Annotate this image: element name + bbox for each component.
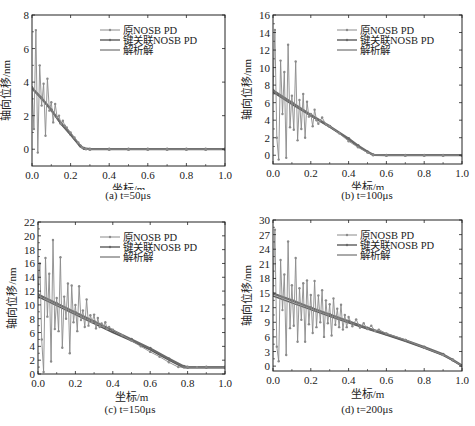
y-tick-label: 21 (259, 258, 270, 270)
y-tick-label: 2 (24, 110, 30, 122)
legend: 原NOSB PD键关联NOSB PD解析解 (100, 232, 197, 263)
y-tick-label: 12 (259, 302, 270, 314)
y-tick-label: 16 (24, 257, 36, 269)
y-tick-label: 14 (259, 27, 271, 39)
series-line (32, 88, 225, 149)
y-tick-label: 9 (265, 316, 271, 328)
chart-c: 0.00.20.40.60.81.00246810121416182022坐标/… (0, 210, 237, 405)
x-tick-label: 0.6 (141, 169, 155, 181)
legend-label: 解析解 (360, 249, 391, 261)
x-axis-label: 坐标/m (115, 390, 149, 403)
caption-c: (c) t=150μs (30, 403, 230, 415)
legend: 原NOSB PD键关联NOSB PD解析解 (337, 25, 434, 56)
x-tick-label: 0.2 (304, 167, 318, 179)
x-tick-label: 0.8 (417, 167, 431, 179)
x-tick-label: 0.2 (304, 374, 318, 386)
x-tick-label: 0.0 (25, 169, 39, 181)
x-tick-label: 0.0 (266, 167, 280, 179)
y-tick-label: 18 (24, 244, 36, 256)
chart-panel-b: 0.00.20.40.60.81.00246810121416坐标/m轴向位移/… (237, 0, 475, 210)
x-tick-label: 0.4 (342, 167, 356, 179)
y-axis-label: 轴向位移/nm (240, 265, 253, 327)
y-tick-label: 27 (259, 229, 271, 241)
x-tick-label: 0.4 (342, 374, 356, 386)
y-tick-label: 6 (24, 43, 30, 55)
x-tick-label: 0.4 (106, 377, 120, 389)
x-tick-label: 1.0 (455, 167, 469, 179)
x-tick-label: 0.6 (380, 167, 394, 179)
y-tick-label: 15 (259, 287, 271, 299)
chart-panel-d: 0.00.20.40.60.81.0036912151821242730坐标/m… (237, 210, 475, 426)
x-tick-label: 0.8 (180, 169, 194, 181)
chart-d: 0.00.20.40.60.81.0036912151821242730坐标/m… (237, 210, 475, 405)
y-tick-label: 22 (24, 216, 35, 228)
y-tick-label: 0 (265, 360, 271, 372)
y-tick-label: 0 (24, 143, 30, 155)
y-tick-label: 14 (24, 271, 36, 283)
x-tick-label: 1.0 (455, 374, 469, 386)
x-tick-label: 1.0 (218, 377, 232, 389)
series-line (38, 295, 225, 368)
y-tick-label: 0 (265, 149, 271, 161)
y-tick-label: 18 (259, 272, 271, 284)
legend-label: 解析解 (123, 251, 154, 263)
y-tick-label: 2 (265, 132, 271, 144)
y-tick-label: 3 (265, 346, 271, 358)
caption-a: (a) t=50μs (28, 189, 228, 201)
legend-label: 解析解 (123, 44, 154, 56)
y-tick-label: 10 (259, 62, 271, 74)
y-tick-label: 30 (259, 214, 271, 226)
chart-a: 0.00.20.40.60.81.002468坐标/m轴向位移/nm原NOSB … (0, 0, 237, 190)
x-tick-label: 0.8 (417, 374, 431, 386)
y-tick-label: 8 (265, 79, 271, 91)
y-tick-label: 12 (24, 285, 35, 297)
y-tick-label: 16 (259, 9, 271, 21)
y-tick-label: 4 (265, 114, 271, 126)
x-tick-label: 0.6 (143, 377, 157, 389)
y-axis-label: 轴向位移/nm (240, 59, 253, 121)
y-tick-label: 8 (24, 9, 30, 21)
y-tick-label: 6 (265, 331, 271, 343)
x-tick-label: 0.2 (69, 377, 83, 389)
x-tick-label: 0.4 (102, 169, 116, 181)
chart-panel-c: 0.00.20.40.60.81.00246810121416182022坐标/… (0, 210, 237, 426)
legend-label: 解析解 (360, 44, 391, 56)
x-axis-label: 坐标/m (351, 387, 385, 400)
y-tick-label: 24 (259, 243, 271, 255)
y-axis-label: 轴向位移/nm (0, 60, 12, 122)
y-tick-label: 2 (30, 354, 36, 366)
legend: 原NOSB PD键关联NOSB PD解析解 (100, 25, 197, 56)
series-line (273, 296, 462, 366)
x-tick-label: 0.0 (266, 374, 280, 386)
x-tick-label: 0.6 (380, 374, 394, 386)
y-tick-label: 4 (24, 76, 30, 88)
y-tick-label: 20 (24, 230, 36, 242)
y-tick-label: 4 (30, 340, 36, 352)
y-axis-label: 轴向位移/nm (5, 267, 18, 329)
x-tick-label: 1.0 (218, 169, 232, 181)
y-tick-label: 12 (259, 44, 270, 56)
caption-d: (d) t=200μs (267, 403, 467, 415)
chart-panel-a: 0.00.20.40.60.81.002468坐标/m轴向位移/nm原NOSB … (0, 0, 237, 210)
y-tick-label: 0 (30, 368, 36, 380)
x-tick-label: 0.8 (181, 377, 195, 389)
series-line (32, 89, 225, 149)
y-tick-label: 6 (265, 97, 271, 109)
caption-b: (b) t=100μs (267, 189, 467, 201)
x-tick-label: 0.2 (64, 169, 78, 181)
y-tick-label: 6 (30, 327, 36, 339)
legend: 原NOSB PD键关联NOSB PD解析解 (337, 230, 434, 261)
chart-b: 0.00.20.40.60.81.00246810121416坐标/m轴向位移/… (237, 0, 475, 190)
y-tick-label: 8 (30, 313, 36, 325)
y-tick-label: 10 (24, 299, 36, 311)
